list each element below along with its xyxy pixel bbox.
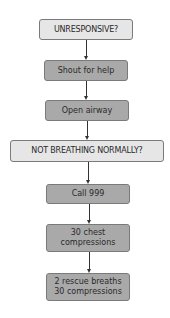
connector <box>89 252 90 269</box>
node-label-line1: 30 chest <box>71 228 105 238</box>
node-label: Open airway <box>62 106 113 116</box>
connector <box>86 40 87 56</box>
node-label: UNRESPONSIVE? <box>54 25 118 35</box>
connector <box>87 121 88 136</box>
node-shout-for-help: Shout for help <box>44 60 128 81</box>
node-label-line2: 30 compressions <box>54 287 122 297</box>
node-label: Call 999 <box>72 189 105 199</box>
node-label-line2: compressions <box>61 238 116 248</box>
connector <box>88 162 89 180</box>
node-not-breathing-normally: NOT BREATHING NORMALLY? <box>10 140 164 162</box>
connector <box>86 81 87 96</box>
node-rescue-breaths: 2 rescue breaths 30 compressions <box>46 273 130 301</box>
node-unresponsive: UNRESPONSIVE? <box>39 19 133 40</box>
node-30-chest-compressions: 30 chest compressions <box>46 224 130 252</box>
node-label-line1: 2 rescue breaths <box>54 277 121 287</box>
node-open-airway: Open airway <box>45 100 129 121</box>
connector <box>89 204 90 220</box>
node-call-999: Call 999 <box>46 184 130 204</box>
node-label: Shout for help <box>58 66 115 76</box>
node-label: NOT BREATHING NORMALLY? <box>31 146 142 156</box>
